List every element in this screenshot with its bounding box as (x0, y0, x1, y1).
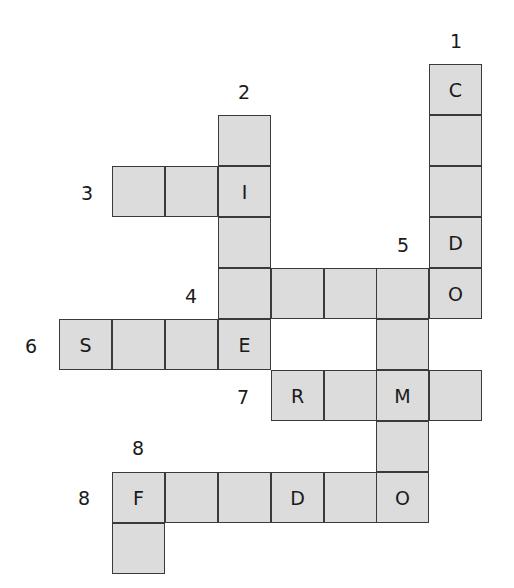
clue-number-label: 1 (444, 30, 468, 52)
clue-number-label: 2 (232, 81, 256, 103)
clue-number-label: 6 (19, 335, 43, 357)
clue-number-label: 3 (75, 182, 99, 204)
crossword-cell[interactable] (112, 523, 165, 574)
crossword-cell[interactable] (376, 319, 429, 370)
crossword-cell[interactable]: M (376, 370, 429, 421)
crossword-cell[interactable]: O (429, 268, 482, 319)
clue-number-label: 4 (179, 285, 203, 307)
crossword-cell[interactable]: F (112, 472, 165, 523)
crossword-cell[interactable] (324, 472, 377, 523)
crossword-cell[interactable] (112, 319, 165, 370)
crossword-cell[interactable]: C (429, 64, 482, 115)
crossword-cell[interactable] (429, 370, 482, 421)
crossword-cell[interactable] (429, 115, 482, 166)
clue-number-label: 5 (391, 234, 415, 256)
crossword-cell[interactable] (218, 472, 271, 523)
crossword-cell[interactable] (271, 268, 324, 319)
crossword-cell[interactable]: O (376, 472, 429, 523)
crossword-cell[interactable]: D (271, 472, 324, 523)
crossword-cell[interactable]: I (218, 166, 271, 217)
crossword-cell[interactable]: S (59, 319, 112, 370)
crossword-cell[interactable]: R (271, 370, 324, 421)
crossword-cell[interactable] (112, 166, 165, 217)
crossword-cell[interactable] (165, 319, 218, 370)
crossword-cell[interactable] (376, 268, 429, 319)
crossword-cell[interactable] (218, 268, 271, 319)
crossword-cell[interactable] (218, 217, 271, 268)
crossword-cell[interactable] (218, 115, 271, 166)
clue-number-label: 7 (231, 386, 255, 408)
crossword-cell[interactable] (376, 421, 429, 472)
crossword-cell[interactable] (324, 268, 377, 319)
crossword-board: CDOIEMOSRFD123456788 (0, 0, 514, 588)
crossword-cell[interactable] (324, 370, 377, 421)
clue-number-label: 8 (126, 437, 150, 459)
crossword-cell[interactable]: D (429, 217, 482, 268)
crossword-cell[interactable]: E (218, 319, 271, 370)
crossword-cell[interactable] (165, 166, 218, 217)
crossword-cell[interactable] (165, 472, 218, 523)
clue-number-label: 8 (72, 487, 96, 509)
crossword-cell[interactable] (429, 166, 482, 217)
